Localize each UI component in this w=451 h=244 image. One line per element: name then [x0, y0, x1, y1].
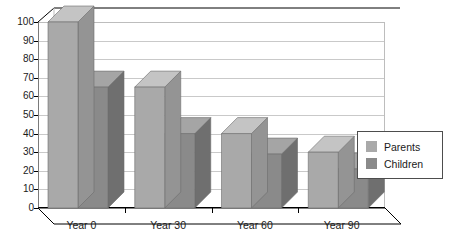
x-axis-tick-mark — [212, 208, 213, 213]
x-axis-category-label: Year 60 — [215, 219, 295, 231]
y-axis: 0102030405060708090100 — [0, 0, 34, 244]
y-axis-tick-label: 70 — [4, 73, 34, 83]
legend-swatch — [366, 141, 377, 152]
y-axis-tick-label: 100 — [4, 17, 34, 27]
plot-area — [38, 22, 385, 208]
x-axis-tick-mark — [298, 208, 299, 213]
x-axis-category-label: Year 0 — [41, 219, 121, 231]
y-axis-tick-label: 80 — [4, 54, 34, 64]
x-axis-tick-mark — [125, 208, 126, 213]
legend-label: Parents — [384, 141, 420, 153]
y-axis-tick-label: 0 — [4, 203, 34, 213]
y-axis-tick-label: 50 — [4, 110, 34, 120]
y-axis-tick-label: 40 — [4, 129, 34, 139]
chart-3d-column: 0102030405060708090100 Year 0Year 30Year… — [0, 0, 451, 244]
y-axis-tick-label: 90 — [4, 36, 34, 46]
y-axis-tick-label: 20 — [4, 166, 34, 176]
y-axis-tick-label: 30 — [4, 147, 34, 157]
y-axis-tick-label: 60 — [4, 91, 34, 101]
x-axis-category-label: Year 30 — [128, 219, 208, 231]
legend: ParentsChildren — [357, 131, 443, 179]
legend-item[interactable]: Parents — [366, 138, 434, 155]
legend-item[interactable]: Children — [366, 155, 434, 172]
x-axis-category-label: Year 90 — [302, 219, 382, 231]
legend-label: Children — [384, 158, 423, 170]
y-axis-tick-mark — [34, 208, 38, 209]
y-axis-tick-label: 10 — [4, 184, 34, 194]
legend-swatch — [366, 158, 377, 169]
